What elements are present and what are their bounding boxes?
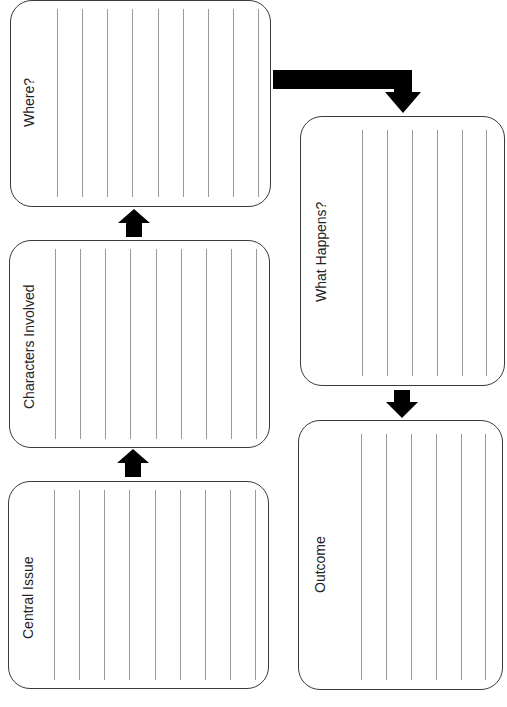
writing-line — [387, 130, 388, 376]
writing-line — [412, 130, 413, 376]
writing-line — [256, 249, 257, 439]
writing-line — [180, 490, 181, 680]
writing-line — [206, 249, 207, 439]
box-outcome: Outcome — [298, 420, 503, 690]
writing-line — [132, 9, 133, 197]
arrow-up-icon — [116, 449, 150, 477]
writing-line — [258, 9, 259, 197]
box-label-characters-involved: Characters Involved — [21, 284, 37, 409]
writing-line — [386, 434, 387, 680]
writing-line — [462, 130, 463, 376]
writing-line — [436, 434, 437, 680]
writing-line — [486, 130, 487, 376]
writing-line — [104, 490, 105, 680]
box-label-what-happens: What Happens? — [313, 202, 329, 302]
writing-line — [105, 249, 106, 439]
box-central-issue: Central Issue — [8, 481, 269, 689]
writing-line — [156, 249, 157, 439]
arrow-down-icon — [385, 390, 419, 418]
box-label-outcome: Outcome — [312, 536, 328, 593]
writing-line — [231, 249, 232, 439]
box-what-happens: What Happens? — [300, 116, 505, 386]
writing-line — [82, 9, 83, 197]
writing-line — [485, 434, 486, 680]
writing-line — [361, 434, 362, 680]
box-label-where: Where? — [21, 78, 37, 127]
writing-line — [57, 9, 58, 197]
writing-line — [183, 9, 184, 197]
writing-line — [362, 130, 363, 376]
writing-line — [107, 9, 108, 197]
writing-line — [80, 249, 81, 439]
box-label-central-issue: Central Issue — [20, 557, 36, 639]
writing-line — [233, 9, 234, 197]
writing-line — [130, 249, 131, 439]
writing-line — [255, 490, 256, 680]
writing-line — [79, 490, 80, 680]
writing-line — [55, 249, 56, 439]
arrow-up-icon — [117, 209, 151, 237]
box-where: Where? — [10, 0, 271, 207]
writing-line — [205, 490, 206, 680]
writing-line — [155, 490, 156, 680]
writing-line — [230, 490, 231, 680]
elbow-arrow-icon — [273, 70, 423, 114]
writing-line — [54, 490, 55, 680]
writing-line — [181, 249, 182, 439]
writing-line — [411, 434, 412, 680]
writing-line — [461, 434, 462, 680]
box-characters-involved: Characters Involved — [9, 240, 270, 448]
writing-line — [208, 9, 209, 197]
writing-line — [158, 9, 159, 197]
writing-line — [437, 130, 438, 376]
writing-line — [129, 490, 130, 680]
